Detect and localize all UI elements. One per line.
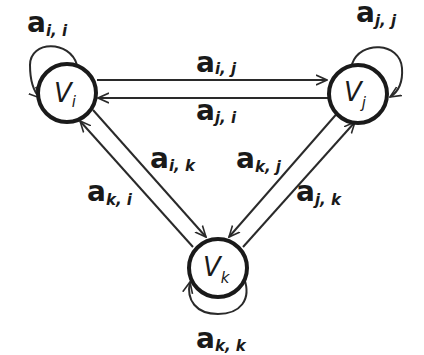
label-a-k-i: ak, i bbox=[87, 175, 133, 209]
label-a-j-j: aj, j bbox=[356, 0, 397, 30]
label-a-k-j: ak, j bbox=[236, 142, 282, 176]
label-a-i-j: ai, j bbox=[196, 46, 237, 79]
label-a-j-k: aj, k bbox=[296, 175, 342, 209]
label-a-i-i: ai, i bbox=[27, 6, 68, 40]
node-v-j: Vj bbox=[329, 65, 387, 123]
state-transition-diagram: Vi Vj Vk ai, i aj, j ak, k ai, j aj, i a… bbox=[0, 0, 424, 355]
label-a-i-k: ai, k bbox=[150, 142, 196, 175]
label-a-k-k: ak, k bbox=[196, 322, 247, 355]
node-v-k: Vk bbox=[189, 239, 247, 297]
node-v-i: Vi bbox=[38, 64, 96, 122]
